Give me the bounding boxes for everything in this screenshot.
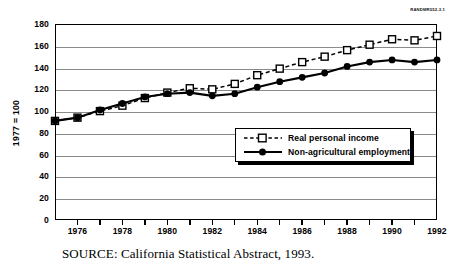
data-point-marker-open-square xyxy=(411,37,418,44)
data-point-marker-filled-circle xyxy=(141,94,148,101)
data-point-marker-filled-circle xyxy=(389,57,396,64)
data-point-marker-filled-circle xyxy=(231,90,238,97)
legend-item-real-personal-income: Real personal income xyxy=(243,131,379,145)
series-real-personal-income xyxy=(52,32,441,124)
data-point-marker-open-square xyxy=(231,80,238,87)
data-point-marker-open-square xyxy=(276,65,283,72)
data-point-marker-filled-circle xyxy=(254,84,261,91)
legend-sample-dashed-open-square-icon xyxy=(243,132,283,144)
data-point-marker-open-square xyxy=(366,41,373,48)
data-point-marker-open-square xyxy=(344,47,351,54)
data-point-marker-filled-circle xyxy=(97,107,104,114)
data-point-marker-filled-circle xyxy=(186,89,193,96)
legend-item-non-agricultural-employment: Non-agricultural employment xyxy=(243,145,410,159)
legend-box: Real personal income Non-agricultural em… xyxy=(235,128,411,162)
data-point-marker-filled-circle xyxy=(52,118,59,125)
data-point-marker-filled-circle xyxy=(164,90,171,97)
data-point-marker-open-square xyxy=(321,53,328,60)
data-point-marker-filled-circle xyxy=(344,63,351,70)
data-point-marker-open-square xyxy=(299,59,306,66)
data-point-marker-filled-circle xyxy=(209,92,216,99)
series-non-agricultural-employment xyxy=(52,57,441,125)
legend-sample-solid-filled-circle-icon xyxy=(243,146,283,158)
data-point-marker-filled-circle xyxy=(434,57,441,64)
data-point-marker-open-square xyxy=(389,36,396,43)
data-point-marker-filled-circle xyxy=(299,74,306,81)
data-point-marker-filled-circle xyxy=(119,100,126,107)
data-point-marker-open-square xyxy=(434,32,441,39)
series-line xyxy=(55,60,437,121)
data-point-marker-filled-circle xyxy=(74,114,81,121)
data-point-marker-filled-circle xyxy=(366,59,373,66)
data-point-marker-filled-circle xyxy=(321,70,328,77)
data-point-marker-filled-circle xyxy=(276,78,283,85)
data-point-marker-open-square xyxy=(209,86,216,93)
source-caption: SOURCE: California Statistical Abstract,… xyxy=(62,246,314,262)
data-point-marker-open-square xyxy=(254,72,261,79)
data-point-marker-filled-circle xyxy=(411,59,418,66)
figure-container: RANDMR552-3.1 020406080100120140160180 1… xyxy=(0,0,452,272)
legend-label-non-agricultural-employment: Non-agricultural employment xyxy=(288,147,410,157)
legend-label-real-personal-income: Real personal income xyxy=(288,133,379,143)
series-line xyxy=(55,36,437,121)
